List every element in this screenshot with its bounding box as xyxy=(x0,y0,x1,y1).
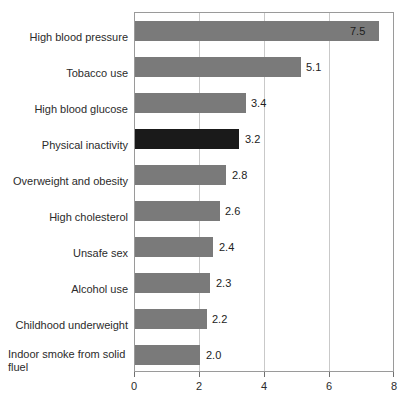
bar-value-label: 7.5 xyxy=(350,21,365,41)
tick-label-6: 6 xyxy=(317,379,341,393)
tick-mark-4 xyxy=(264,372,265,377)
bar xyxy=(135,309,207,329)
tick-mark-0 xyxy=(134,372,135,377)
category-label-tobacco-use: Tobacco use xyxy=(0,67,128,80)
bar-value-label: 3.2 xyxy=(245,129,260,149)
bar-row: 3.4 xyxy=(135,85,393,121)
bar-row: 2.6 xyxy=(135,193,393,229)
category-label-childhood-underweight: Childhood underweight xyxy=(0,319,128,332)
plot-area: 7.5 5.1 3.4 3.2 2.8 2.6 2. xyxy=(134,12,394,372)
bar xyxy=(135,21,379,41)
category-label-indoor-smoke-from-solid-fuel: Indoor smoke from solid fluel xyxy=(8,348,130,374)
bar-row: 2.3 xyxy=(135,265,393,301)
bar-row: 2.0 xyxy=(135,337,393,373)
bar xyxy=(135,165,226,185)
tick-label-4: 4 xyxy=(252,379,276,393)
bar xyxy=(135,237,213,257)
bar xyxy=(135,273,210,293)
bar-row: 2.8 xyxy=(135,157,393,193)
category-label-overweight-and-obesity: Overweight and obesity xyxy=(0,175,128,188)
bar-row-highlighted: 3.2 xyxy=(135,121,393,157)
category-label-high-cholesterol: High cholesterol xyxy=(0,211,128,224)
bar xyxy=(135,57,301,77)
bar-row: 2.2 xyxy=(135,301,393,337)
bar xyxy=(135,201,220,221)
bar-row: 5.1 xyxy=(135,49,393,85)
category-label-physical-inactivity: Physical inactivity xyxy=(0,139,128,152)
bar-value-label: 5.1 xyxy=(306,57,321,77)
tick-label-2: 2 xyxy=(187,379,211,393)
bar xyxy=(135,93,246,113)
bar-row: 7.5 xyxy=(135,13,393,49)
bar-value-label: 2.2 xyxy=(212,309,227,329)
bar-chart: 7.5 5.1 3.4 3.2 2.8 2.6 2. xyxy=(0,0,411,401)
bar-highlighted xyxy=(135,129,239,149)
tick-label-8: 8 xyxy=(382,379,406,393)
bar-value-label: 2.6 xyxy=(225,201,240,221)
category-label-alcohol-use: Alcohol use xyxy=(0,283,128,296)
category-label-high-blood-pressure: High blood pressure xyxy=(0,31,128,44)
category-label-unsafe-sex: Unsafe sex xyxy=(0,247,128,260)
bar-value-label: 2.3 xyxy=(216,273,231,293)
bar-value-label: 2.4 xyxy=(219,237,234,257)
tick-mark-8 xyxy=(393,372,394,377)
bar-value-label: 2.0 xyxy=(206,345,221,365)
bar-row: 2.4 xyxy=(135,229,393,265)
category-label-high-blood-glucose: High blood glucose xyxy=(0,103,128,116)
bar-value-label: 2.8 xyxy=(232,165,247,185)
tick-label-0: 0 xyxy=(122,379,146,393)
bar xyxy=(135,345,200,365)
bar-value-label: 3.4 xyxy=(251,93,266,113)
tick-mark-6 xyxy=(329,372,330,377)
tick-mark-2 xyxy=(199,372,200,377)
